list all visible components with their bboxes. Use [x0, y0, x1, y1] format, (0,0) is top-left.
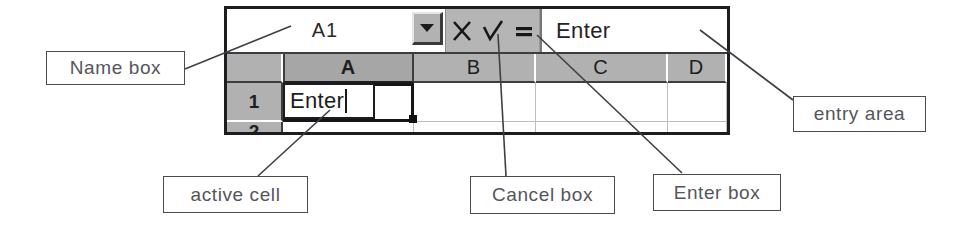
cell-a2[interactable]: [283, 122, 414, 135]
column-header-row: A B C D: [227, 52, 727, 83]
name-box-value: A1: [312, 19, 360, 42]
annotated-diagram-canvas: A1: [0, 0, 967, 244]
callout-entry-area-label: entry area: [814, 103, 906, 125]
column-header-d[interactable]: D: [668, 54, 727, 83]
callout-name-box: Name box: [46, 51, 185, 85]
fill-handle[interactable]: [409, 115, 417, 123]
column-header-a[interactable]: A: [283, 54, 414, 83]
row-header-1[interactable]: 1: [227, 83, 283, 122]
callout-enter-box: Enter box: [653, 174, 781, 211]
cell-c1[interactable]: [536, 83, 668, 122]
formula-bar: A1: [227, 9, 727, 52]
name-box-dropdown-button[interactable]: [412, 12, 443, 45]
callout-active-cell-label: active cell: [190, 184, 280, 206]
callout-cancel-box: Cancel box: [470, 176, 615, 214]
column-header-c[interactable]: C: [536, 54, 668, 83]
cell-d1[interactable]: [668, 83, 727, 122]
spreadsheet-widget: A1: [224, 6, 730, 135]
name-box[interactable]: A1: [227, 9, 446, 52]
callout-name-box-label: Name box: [70, 57, 161, 79]
entry-area[interactable]: Enter: [540, 9, 727, 52]
text-caret-icon: [345, 89, 347, 113]
cell-b1[interactable]: [414, 83, 536, 122]
callout-entry-area: entry area: [793, 96, 926, 132]
cancel-box-button[interactable]: [449, 16, 475, 46]
active-cell-editor-value: Enter: [290, 88, 344, 114]
cell-c2[interactable]: [536, 122, 668, 135]
check-mark-icon: [481, 19, 505, 43]
column-header-b[interactable]: B: [414, 54, 536, 83]
callout-cancel-box-label: Cancel box: [492, 184, 593, 206]
enter-box-button[interactable]: [480, 16, 506, 46]
select-all-corner[interactable]: [227, 54, 283, 83]
table-row: 2: [227, 122, 727, 135]
cell-b2[interactable]: [414, 122, 536, 135]
callout-enter-box-label: Enter box: [674, 182, 761, 204]
chevron-down-icon: [420, 24, 434, 32]
cell-d2[interactable]: [668, 122, 727, 135]
equals-icon: [513, 20, 535, 42]
callout-active-cell: active cell: [163, 176, 308, 213]
equals-button[interactable]: [511, 16, 537, 46]
formula-bar-buttons: [446, 9, 540, 52]
active-cell-editor[interactable]: Enter: [283, 83, 375, 119]
row-header-2[interactable]: 2: [227, 122, 283, 135]
row-2-cells: [283, 122, 727, 135]
entry-area-value: Enter: [556, 18, 611, 44]
x-cross-icon: [450, 19, 474, 43]
